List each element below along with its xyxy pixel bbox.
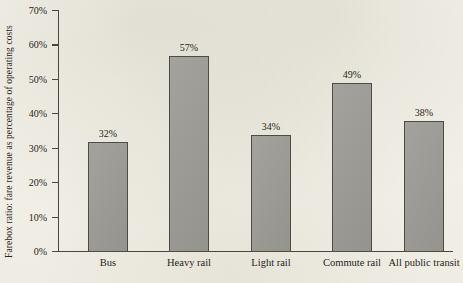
bar-group: 34% (251, 135, 291, 252)
y-axis-tick-label: 20% (0, 177, 47, 188)
y-axis-tick (52, 10, 59, 11)
bar-value-label: 49% (343, 69, 361, 80)
y-axis-tick-label: 60% (0, 39, 47, 50)
y-axis-tick (52, 79, 59, 80)
y-axis-tick (52, 182, 59, 183)
bar (251, 135, 291, 252)
x-axis-category-label: Light rail (251, 257, 290, 268)
bar (332, 83, 372, 252)
bar (169, 56, 209, 252)
bar-value-label: 34% (262, 121, 280, 132)
y-axis-tick (52, 44, 59, 45)
bar-group: 38% (404, 121, 444, 252)
scanned-paper-texture (0, 0, 463, 283)
x-axis-category-label: Bus (100, 257, 116, 268)
bar-value-label: 32% (99, 128, 117, 139)
x-axis-category-label: Commute rail (323, 257, 381, 268)
y-axis-tick (52, 251, 59, 252)
bar-group: 49% (332, 83, 372, 252)
y-axis-tick-label: 40% (0, 108, 47, 119)
bar-value-label: 38% (415, 107, 433, 118)
y-axis-tick-label: 0% (0, 246, 47, 257)
bar-value-label: 57% (180, 42, 198, 53)
y-axis-tick (52, 113, 59, 114)
y-axis-tick-label: 50% (0, 73, 47, 84)
y-axis-tick-label: 70% (0, 5, 47, 16)
x-axis-category-label: All public transit (388, 257, 459, 268)
x-axis-category-label: Heavy rail (167, 257, 211, 268)
bar-group: 32% (88, 142, 128, 252)
bar (404, 121, 444, 252)
bar (88, 142, 128, 252)
y-axis-tick (52, 148, 59, 149)
y-axis-tick (52, 217, 59, 218)
bar-group: 57% (169, 56, 209, 252)
bar-chart-figure: Farebox ratio: fare revenue as percentag… (0, 0, 463, 283)
y-axis-tick-label: 30% (0, 142, 47, 153)
y-axis-tick-label: 10% (0, 211, 47, 222)
